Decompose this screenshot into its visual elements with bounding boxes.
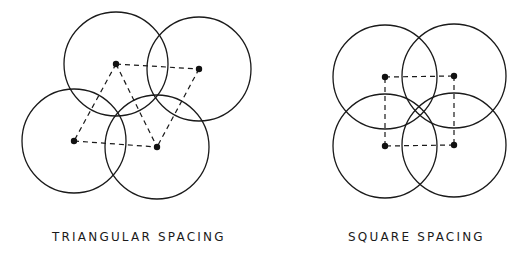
center-point [451, 142, 457, 148]
dashed-spacing-line [116, 64, 199, 69]
dashed-spacing-line [116, 64, 157, 147]
square-spacing-label: SQUARE SPACING [348, 230, 485, 243]
triangular-spacing-diagram [22, 12, 251, 199]
triangular-spacing-label: TRIANGULAR SPACING [52, 230, 226, 243]
center-point [451, 73, 457, 79]
center-point [113, 61, 119, 67]
dashed-spacing-line [385, 145, 454, 146]
center-point [154, 144, 160, 150]
square-spacing-diagram [333, 24, 506, 198]
dashed-spacing-line [157, 69, 199, 147]
center-point [382, 74, 388, 80]
dashed-spacing-line [74, 141, 157, 147]
dashed-spacing-line [385, 76, 454, 77]
spacing-diagrams [0, 0, 529, 261]
center-point [196, 66, 202, 72]
center-point [382, 143, 388, 149]
center-point [71, 138, 77, 144]
